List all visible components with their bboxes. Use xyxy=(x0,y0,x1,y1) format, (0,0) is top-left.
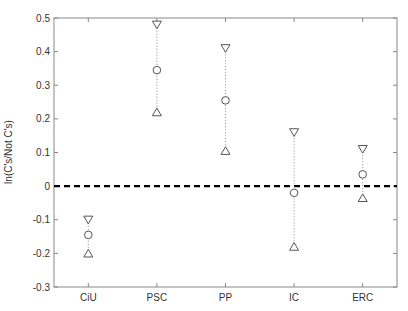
circle-marker xyxy=(85,231,93,239)
x-axis: CiUPSCPPICERC xyxy=(80,18,373,303)
y-tick-label: -0.1 xyxy=(33,214,51,225)
circle-marker xyxy=(222,97,230,105)
triangle-up-marker xyxy=(290,243,299,251)
triangle-down-marker xyxy=(290,129,299,137)
x-tick-label: CiU xyxy=(80,292,97,303)
triangle-down-marker xyxy=(152,21,161,29)
y-tick-label: 0.1 xyxy=(36,147,50,158)
x-tick-label: IC xyxy=(289,292,299,303)
y-tick-label: 0.5 xyxy=(36,13,50,24)
circle-marker xyxy=(153,66,161,74)
y-tick-label: 0.4 xyxy=(36,46,50,57)
circle-marker xyxy=(290,189,298,197)
y-tick-label: 0.2 xyxy=(36,113,50,124)
y-axis-label: ln(C's/Not C's) xyxy=(3,120,14,184)
triangle-up-marker xyxy=(358,194,367,202)
triangle-down-marker xyxy=(84,216,93,224)
data-series xyxy=(84,21,367,257)
triangle-up-marker xyxy=(152,108,161,116)
triangle-down-marker xyxy=(221,45,230,53)
y-tick-label: 0.3 xyxy=(36,80,50,91)
y-tick-label: 0 xyxy=(44,181,50,192)
triangle-up-marker xyxy=(84,249,93,257)
y-tick-label: -0.3 xyxy=(33,282,51,293)
chart-area: -0.3-0.2-0.100.10.20.30.40.5 CiUPSCPPICE… xyxy=(0,0,408,311)
error-bar-group-ic xyxy=(290,129,299,251)
triangle-down-marker xyxy=(358,146,367,154)
error-bar-group-erc xyxy=(358,146,367,202)
error-bar-group-psc xyxy=(152,21,161,116)
y-tick-label: -0.2 xyxy=(33,248,51,259)
triangle-up-marker xyxy=(221,147,230,155)
x-tick-label: ERC xyxy=(352,292,373,303)
x-tick-label: PP xyxy=(219,292,233,303)
error-bar-group-pp xyxy=(221,45,230,155)
error-bar-group-ciu xyxy=(84,216,93,257)
x-tick-label: PSC xyxy=(147,292,168,303)
circle-marker xyxy=(359,171,367,179)
